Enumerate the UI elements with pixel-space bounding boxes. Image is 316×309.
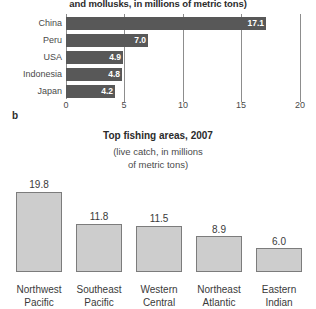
category-label-indonesia: Indonesia (0, 67, 62, 81)
bar-value-northeast-atlantic: 8.9 (190, 224, 248, 235)
panel-a-title: and mollusks, in millions of metric tons… (0, 0, 316, 9)
bar-northwest-pacific (16, 192, 62, 272)
bar-value-eastern-indian: 6.0 (250, 236, 308, 247)
bar-row-china: China 17.1 (0, 16, 316, 30)
category-label-china: China (0, 16, 62, 30)
category-label-usa: USA (0, 50, 62, 64)
category-label-japan: Japan (0, 84, 62, 98)
bar-value-peru: 7.0 (66, 34, 148, 47)
category-label-peru: Peru (0, 33, 62, 47)
bar-northeast-atlantic (196, 236, 242, 272)
panel-a-top-fishing-nations: and mollusks, in millions of metric tons… (0, 0, 316, 104)
bar-southeast-pacific (76, 224, 122, 272)
bar-value-western-central: 11.5 (130, 213, 188, 224)
bar-row-japan: Japan 4.2 (0, 84, 316, 98)
bar-col-southeast-pacific: 11.8 Southeast Pacific (70, 174, 128, 309)
panel-a-plot-area: China 17.1 Peru 7.0 USA 4.9 Indonesia 4.… (0, 14, 316, 104)
bar-row-usa: USA 4.9 (0, 50, 316, 64)
bar-western-central (136, 226, 182, 272)
panel-b-subtitle-line1: (live catch, in millions (0, 146, 316, 157)
bar-col-northwest-pacific: 19.8 Northwest Pacific (10, 174, 68, 309)
category-label-eastern-indian: Eastern Indian (244, 283, 314, 309)
bar-row-indonesia: Indonesia 4.8 (0, 67, 316, 81)
panel-b-plot-area: 19.8 Northwest Pacific 11.8 Southeast Pa… (0, 174, 316, 309)
panel-b-title: Top fishing areas, 2007 (0, 130, 316, 141)
bar-value-japan: 4.2 (66, 85, 115, 98)
bar-value-indonesia: 4.8 (66, 68, 122, 81)
bar-row-peru: Peru 7.0 (0, 33, 316, 47)
bar-value-china: 17.1 (66, 17, 266, 30)
bar-col-northeast-atlantic: 8.9 Northeast Atlantic (190, 174, 248, 309)
panel-b-subtitle-line2: of metric tons) (0, 159, 316, 170)
bar-value-northwest-pacific: 19.8 (10, 179, 68, 190)
bar-col-western-central: 11.5 Western Central (130, 174, 188, 309)
panel-b-top-fishing-areas: b Top fishing areas, 2007 (live catch, i… (0, 104, 316, 309)
bar-value-usa: 4.9 (66, 51, 123, 64)
bar-value-southeast-pacific: 11.8 (70, 211, 128, 222)
bar-col-eastern-indian: 6.0 Eastern Indian (250, 174, 308, 309)
panel-b-letter: b (12, 110, 18, 121)
bar-eastern-indian (256, 248, 302, 272)
